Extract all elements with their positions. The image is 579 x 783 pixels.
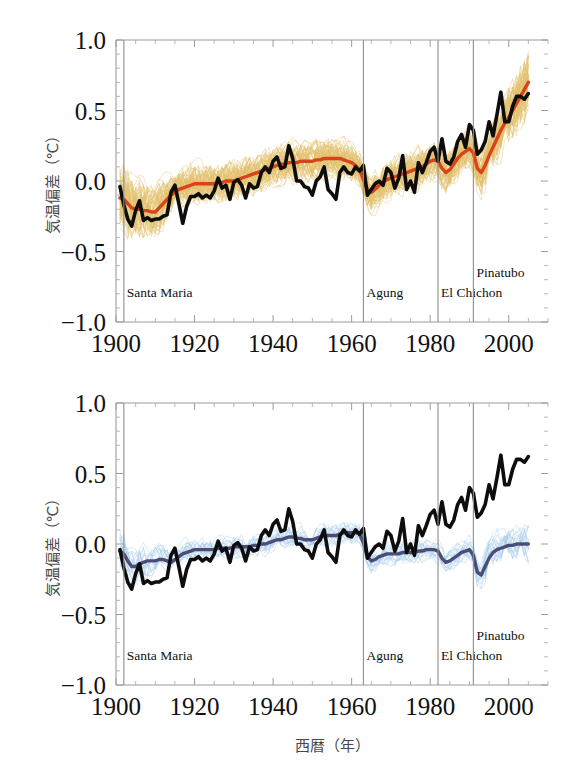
x-tick-label: 1980 [405,693,455,720]
panel-bottom-plot: 1.00.50.0−0.5−1.019001920194019601980200… [44,390,548,755]
panel-natural-forcings: 1.00.50.0−0.5−1.019001920194019601980200… [0,380,579,783]
x-tick-label: 1980 [405,330,455,357]
x-tick-label: 1900 [91,693,141,720]
y-tick-label: 0.0 [75,168,106,195]
x-tick-label: 1940 [248,693,298,720]
y-tick-label: 0.5 [75,98,106,125]
climate-attribution-figure: 1.00.50.0−0.5−1.019001920194019601980200… [0,0,579,783]
y-axis-title: 気温偏差（℃） [44,128,62,235]
x-tick-label: 1900 [91,330,141,357]
observed-temperature-line [120,455,528,589]
y-tick-label: −0.5 [61,602,106,629]
y-tick-label: 0.0 [75,531,106,558]
volcano-label-pinatubo: Pinatubo [476,628,524,643]
panel-natural-forcings-svg: 1.00.50.0−0.5−1.019001920194019601980200… [0,380,579,783]
x-tick-label: 2000 [484,693,534,720]
x-tick-label: 2000 [484,330,534,357]
panel-top-plot: 1.00.50.0−0.5−1.019001920194019601980200… [44,27,548,357]
y-tick-label: 0.5 [75,461,106,488]
panel-all-forcings: 1.00.50.0−0.5−1.019001920194019601980200… [0,0,579,400]
data-layer [120,51,528,239]
volcano-label-santa-maria: Santa Maria [127,285,193,300]
y-tick-label: −0.5 [61,239,106,266]
data-layer [120,455,528,589]
x-axis-title: 西暦（年） [295,737,370,755]
x-tick-label: 1960 [327,330,377,357]
x-tick-label: 1960 [327,693,377,720]
y-axis-title: 気温偏差（℃） [44,491,62,598]
volcano-label-el-chichon: El Chichon [441,648,502,663]
x-tick-label: 1920 [170,330,220,357]
y-tick-label: 1.0 [75,27,106,54]
volcano-label-santa-maria: Santa Maria [127,648,193,663]
volcano-label-agung: Agung [366,285,403,300]
y-tick-label: 1.0 [75,390,106,417]
volcano-label-pinatubo: Pinatubo [476,265,524,280]
panel-all-forcings-svg: 1.00.50.0−0.5−1.019001920194019601980200… [0,0,579,400]
x-tick-label: 1940 [248,330,298,357]
volcano-label-el-chichon: El Chichon [441,285,502,300]
volcano-label-agung: Agung [366,648,403,663]
x-tick-label: 1920 [170,693,220,720]
